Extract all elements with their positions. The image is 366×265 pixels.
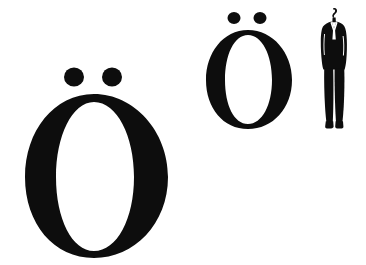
human-silhouette-svg — [314, 6, 354, 130]
head-hair-icon — [332, 8, 337, 18]
trouser-leg-right — [335, 69, 345, 122]
glyph-o-diaeresis-large — [22, 64, 172, 259]
shoe-right — [335, 121, 343, 128]
head-neck — [332, 17, 336, 22]
human-silhouette-scale-reference — [314, 6, 354, 130]
diaeresis-dot-right-icon — [102, 68, 122, 87]
glyph-medium-ink — [206, 12, 292, 129]
glyph-o-diaeresis-large-svg — [22, 64, 172, 259]
glyph-o-diaeresis-medium — [204, 8, 294, 132]
letter-o-bowl — [206, 30, 292, 129]
human-silhouette-ink — [321, 8, 347, 128]
diaeresis-dot-left-icon — [64, 68, 84, 87]
trouser-leg-left — [324, 69, 333, 122]
diaeresis-dot-left-icon — [228, 12, 241, 24]
shoe-left — [325, 121, 333, 128]
diaeresis-dot-right-icon — [254, 12, 267, 24]
canvas: Typographic scale comparison: two sizes … — [0, 0, 366, 265]
letter-o-bowl — [25, 94, 168, 258]
glyph-large-ink — [25, 68, 168, 259]
glyph-o-diaeresis-medium-svg — [204, 8, 294, 132]
